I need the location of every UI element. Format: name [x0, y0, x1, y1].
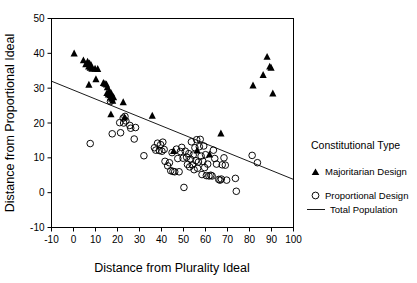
- scatter-plot-figure: -100102030405060708090100 -1001020304050…: [0, 0, 417, 283]
- data-point-majoritarian: [149, 112, 156, 119]
- y-axis-label: Distance from Proportional Ideal: [3, 34, 17, 213]
- data-point-majoritarian: [120, 98, 127, 105]
- plot-frame: [52, 19, 294, 228]
- data-point-majoritarian: [249, 81, 256, 88]
- y-tick-label: -10: [30, 222, 45, 233]
- x-tick-label: 80: [244, 234, 256, 245]
- series-majoritarian-design-points: [71, 49, 277, 157]
- legend-label-total-population: Total Population: [330, 204, 398, 215]
- data-point-proportional: [117, 129, 124, 136]
- data-point-majoritarian: [107, 110, 114, 117]
- data-point-proportional: [109, 131, 116, 138]
- legend: Constitutional Type Majoritarian Design …: [307, 139, 408, 215]
- data-point-majoritarian: [85, 81, 92, 88]
- legend-open-circle-icon: [312, 192, 319, 199]
- y-tick-label: 40: [33, 48, 45, 59]
- x-tick-label: 90: [266, 234, 278, 245]
- data-point-proportional: [132, 124, 139, 131]
- data-point-majoritarian: [260, 71, 267, 78]
- data-point-majoritarian: [269, 89, 276, 96]
- x-tick-label: 40: [156, 234, 168, 245]
- y-tick-label: 10: [33, 152, 45, 163]
- x-tick-label: 100: [285, 234, 302, 245]
- x-tick-label: 0: [71, 234, 77, 245]
- data-point-proportional: [200, 143, 207, 150]
- legend-label-proportional-design: Proportional Design: [325, 190, 408, 201]
- x-tick-label: 50: [178, 234, 190, 245]
- legend-title: Constitutional Type: [311, 139, 400, 151]
- data-point-majoritarian: [71, 49, 78, 56]
- x-tick-label: -10: [44, 234, 59, 245]
- data-point-proportional: [161, 146, 168, 153]
- data-point-proportional: [249, 152, 256, 159]
- x-tick-label: 70: [222, 234, 234, 245]
- data-point-majoritarian: [170, 147, 177, 154]
- data-point-majoritarian: [217, 130, 224, 137]
- x-axis-ticks: [52, 228, 294, 232]
- y-axis-ticks: [48, 19, 52, 228]
- x-tick-label: 10: [90, 234, 102, 245]
- data-point-proportional: [176, 168, 183, 175]
- x-axis-label: Distance from Plurality Ideal: [94, 261, 250, 275]
- data-point-proportional: [210, 147, 217, 154]
- data-point-proportional: [232, 175, 239, 182]
- data-point-majoritarian: [92, 75, 99, 82]
- y-tick-label: 50: [33, 13, 45, 24]
- data-point-proportional: [221, 155, 228, 162]
- y-tick-label: 30: [33, 83, 45, 94]
- data-point-proportional: [233, 188, 240, 195]
- legend-filled-triangle-icon: [312, 169, 320, 176]
- data-point-proportional: [181, 184, 188, 191]
- chart-canvas: -100102030405060708090100 -1001020304050…: [0, 0, 417, 283]
- y-tick-label: 0: [39, 187, 45, 198]
- series-proportional-design-points: [87, 98, 261, 194]
- x-tick-label: 30: [134, 234, 146, 245]
- data-point-proportional: [141, 152, 148, 159]
- x-axis-tick-labels: -100102030405060708090100: [44, 234, 302, 245]
- legend-label-majoritarian-design: Majoritarian Design: [325, 166, 407, 177]
- data-point-proportional: [199, 171, 206, 178]
- x-tick-label: 20: [112, 234, 124, 245]
- data-point-proportional: [131, 136, 138, 143]
- data-point-majoritarian: [264, 53, 271, 60]
- data-point-proportional: [87, 140, 94, 147]
- y-axis-tick-labels: -1001020304050: [30, 13, 45, 233]
- x-tick-label: 60: [200, 234, 212, 245]
- y-tick-label: 20: [33, 118, 45, 129]
